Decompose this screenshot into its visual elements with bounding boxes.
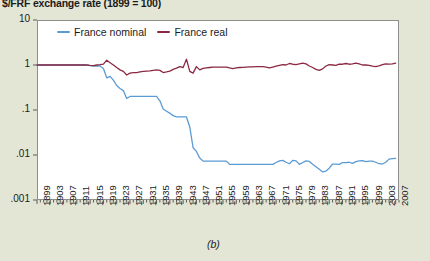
axis-ticks <box>33 20 399 204</box>
line-france-nominal <box>37 65 396 172</box>
line-france-real <box>37 59 396 75</box>
series-layer <box>0 0 430 261</box>
legend-label-france-nominal: France nominal <box>74 26 146 38</box>
subfigure-label: (b) <box>207 238 220 250</box>
legend-swatch-france-nominal <box>57 31 70 33</box>
figure-container: $/FRF exchange rate (1899 = 100) 101.1.0… <box>0 0 430 261</box>
legend-swatch-france-real <box>157 31 170 33</box>
legend-entry-france-real: France real <box>157 26 227 38</box>
legend-entry-france-nominal: France nominal <box>57 26 146 38</box>
legend-label-france-real: France real <box>174 26 227 38</box>
chart-legend: France nominal France real <box>57 26 227 38</box>
